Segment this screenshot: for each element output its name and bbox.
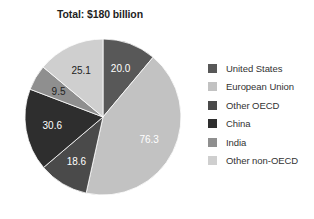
- pie-chart-figure: Total: $180 billion 20.076.318.630.69.52…: [0, 0, 314, 219]
- legend-item-label: China: [226, 119, 251, 129]
- pie-slice-value-label: 25.1: [71, 65, 91, 76]
- chart-title: Total: $180 billion: [0, 8, 200, 20]
- legend-swatch-icon: [208, 101, 217, 110]
- legend: United StatesEuropean UnionOther OECDChi…: [208, 59, 314, 170]
- legend-item[interactable]: United States: [208, 59, 314, 78]
- legend-item[interactable]: India: [208, 133, 314, 152]
- legend-item-label: European Union: [226, 82, 294, 92]
- legend-item-label: United States: [226, 64, 282, 74]
- pie-slice-value-label: 20.0: [111, 63, 131, 74]
- pie-slice-group: [25, 39, 181, 195]
- legend-swatch-icon: [208, 138, 217, 147]
- pie-svg: 20.076.318.630.69.525.1: [24, 25, 184, 210]
- legend-swatch-icon: [208, 82, 217, 91]
- pie-slice-value-label: 76.3: [139, 134, 159, 145]
- pie-slice-value-label: 18.6: [67, 156, 87, 167]
- legend-item[interactable]: European Union: [208, 78, 314, 97]
- legend-swatch-icon: [208, 64, 217, 73]
- legend-item-label: India: [226, 138, 246, 148]
- legend-item[interactable]: Other OECD: [208, 96, 314, 115]
- legend-swatch-icon: [208, 119, 217, 128]
- pie-slice-value-label: 9.5: [52, 86, 66, 97]
- legend-item[interactable]: China: [208, 115, 314, 134]
- legend-swatch-icon: [208, 156, 217, 165]
- pie-slice-value-label: 30.6: [43, 120, 63, 131]
- legend-item-label: Other OECD: [226, 101, 279, 111]
- legend-item[interactable]: Other non-OECD: [208, 152, 314, 171]
- pie-plot-area: 20.076.318.630.69.525.1: [24, 25, 184, 210]
- legend-item-label: Other non-OECD: [226, 156, 298, 166]
